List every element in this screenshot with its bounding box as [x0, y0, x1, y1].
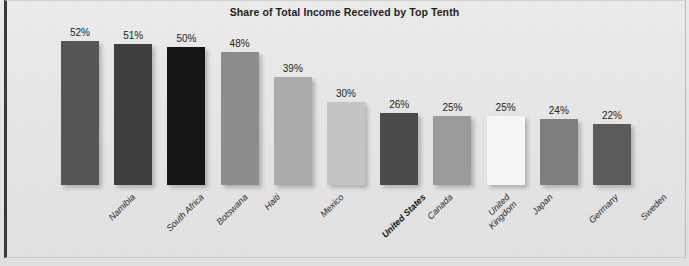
bar-category-label: Canada	[425, 192, 454, 221]
bar-group: 25%	[487, 0, 525, 185]
bar[interactable]	[487, 116, 525, 185]
bar-category-label: United States	[380, 192, 428, 240]
bar[interactable]	[327, 102, 365, 185]
bar-group: 26%	[380, 0, 418, 185]
bar-value-label: 22%	[593, 110, 631, 121]
bar-group: 50%	[167, 0, 205, 185]
bar-category-label: Japan	[530, 192, 554, 216]
bar[interactable]	[274, 77, 312, 185]
bar[interactable]	[433, 116, 471, 185]
bar-value-label: 25%	[433, 102, 471, 113]
bar-group: 48%	[221, 0, 259, 185]
bar-category-label: Haiti	[262, 192, 282, 212]
bar-category-label: Sweden	[639, 192, 669, 222]
bar-value-label: 24%	[540, 105, 578, 116]
bar-group: 39%	[274, 0, 312, 185]
bar-value-label: 51%	[114, 30, 152, 41]
bar-category-label: Botswana	[215, 192, 250, 227]
bar[interactable]	[221, 52, 259, 185]
bar-value-label: 48%	[221, 38, 259, 49]
bar[interactable]	[540, 119, 578, 185]
bar-value-label: 30%	[327, 88, 365, 99]
bar[interactable]	[593, 124, 631, 185]
bar-value-label: 26%	[380, 99, 418, 110]
bar-category-label: United Kingdom	[480, 192, 519, 231]
chart-title: Share of Total Income Received by Top Te…	[0, 6, 689, 18]
chart-screenshot: Share of Total Income Received by Top Te…	[0, 0, 689, 266]
bar-value-label: 39%	[274, 63, 312, 74]
bar-group: 51%	[114, 0, 152, 185]
bar-group: 25%	[433, 0, 471, 185]
bar[interactable]	[114, 44, 152, 185]
bar-group: 22%	[593, 0, 631, 185]
bar-value-label: 52%	[61, 27, 99, 38]
bar-value-label: 50%	[167, 33, 205, 44]
bar-value-label: 25%	[487, 102, 525, 113]
bar-group: 24%	[540, 0, 578, 185]
bar-category-label: Mexico	[318, 192, 345, 219]
bar-category-label: Germany	[587, 192, 620, 225]
bar-chart-plot-area: 52%Namibia51%South Africa50%Botswana48%H…	[0, 0, 689, 266]
bar-category-label: South Africa	[164, 192, 206, 234]
bar-group: 30%	[327, 0, 365, 185]
bar-category-label: Namibia	[107, 192, 137, 222]
bar[interactable]	[380, 113, 418, 185]
bar[interactable]	[167, 47, 205, 185]
bar[interactable]	[61, 41, 99, 185]
bar-group: 52%	[61, 0, 99, 185]
